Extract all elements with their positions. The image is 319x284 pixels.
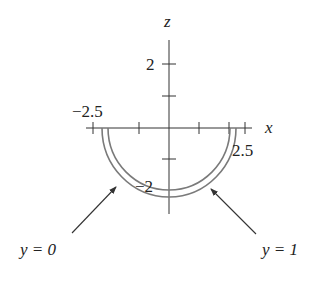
x-tick-label-pos: 2.5	[232, 141, 253, 160]
diagram-canvas: z x −2.5 2.5 2 −2 y = 0 y = 1	[0, 0, 319, 284]
arrow-y0	[72, 187, 116, 233]
x-axis-label: x	[264, 118, 273, 137]
z-tick-label-neg: −2	[135, 177, 153, 196]
x-tick-label-neg: −2.5	[72, 102, 103, 121]
arrow-y1	[211, 189, 256, 234]
label-y0: y = 0	[18, 240, 57, 259]
z-axis-label: z	[163, 12, 171, 31]
z-tick-label-pos: 2	[146, 55, 155, 74]
label-y1: y = 1	[260, 240, 298, 259]
